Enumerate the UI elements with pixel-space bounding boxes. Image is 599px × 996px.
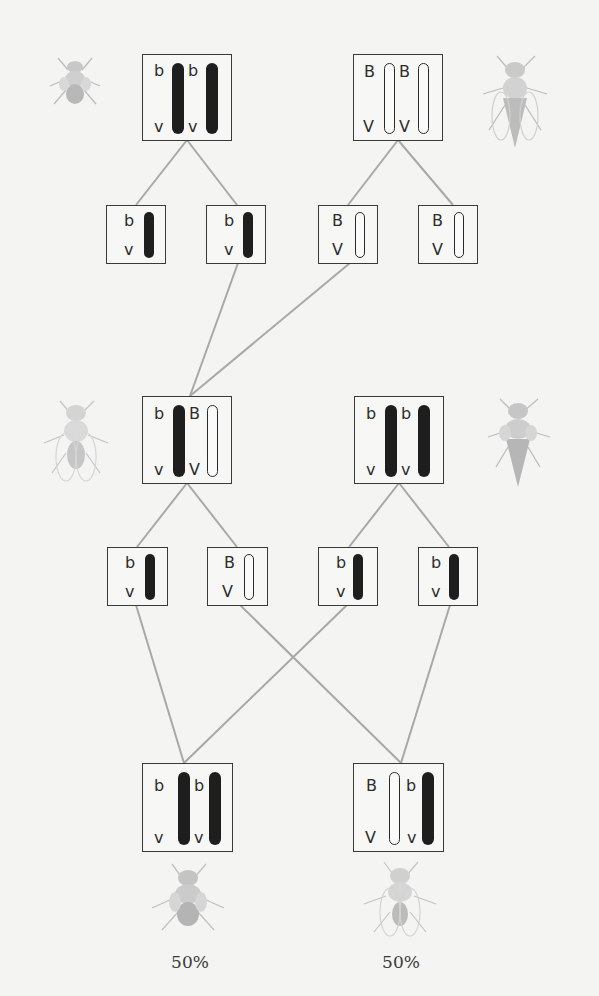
allele-label: b (154, 63, 164, 79)
chromosome-recessive (353, 554, 363, 600)
allele-label: b (194, 778, 204, 794)
allele-label: V (189, 462, 200, 478)
allele-label: b (366, 406, 376, 422)
allele-label: B (364, 64, 375, 80)
gamete-box: b v (107, 547, 168, 606)
chromosome-dominant (355, 212, 365, 258)
offspring-box-2: B V b v (353, 763, 444, 852)
allele-label: V (332, 242, 343, 258)
allele-label: V (222, 584, 233, 600)
chromosome-dominant (207, 405, 218, 477)
wild-type-fly-icon (360, 860, 440, 940)
gamete-box: b v (418, 547, 478, 606)
gamete-box: B V (207, 547, 268, 606)
chromosome-recessive (385, 405, 397, 477)
chromosome-recessive (206, 63, 218, 134)
offspring-box-1: b v b v (142, 763, 233, 852)
chromosome-recessive (172, 63, 184, 134)
gamete-box: b v (206, 205, 266, 264)
offspring-percentage-2: 50% (361, 952, 441, 972)
allele-label: v (154, 830, 163, 846)
allele-label: V (399, 119, 410, 135)
allele-label: b (406, 778, 416, 794)
allele-label: v (188, 119, 197, 135)
chromosome-dominant (389, 772, 400, 845)
allele-label: v (336, 584, 345, 600)
allele-label: v (125, 584, 134, 600)
allele-label: v (407, 830, 416, 846)
allele-label: b (336, 555, 346, 571)
allele-label: b (124, 213, 134, 229)
allele-label: b (154, 778, 164, 794)
allele-label: v (154, 462, 163, 478)
allele-label: B (432, 213, 443, 229)
wild-type-fly-icon (38, 395, 113, 490)
chromosome-dominant (244, 554, 254, 600)
allele-label: b (401, 406, 411, 422)
black-vestigial-fly-icon (40, 52, 110, 112)
chromosome-recessive (144, 212, 154, 258)
chromosome-recessive (418, 405, 430, 477)
chromosome-recessive (449, 554, 459, 600)
offspring-percentage-1: 50% (150, 952, 230, 972)
f1-box: b v B V (142, 396, 232, 484)
allele-label: v (124, 242, 133, 258)
wild-type-fly-icon (475, 50, 555, 155)
allele-label: v (431, 584, 440, 600)
black-vestigial-fly-icon (478, 395, 558, 490)
chromosome-recessive (243, 212, 253, 258)
black-vestigial-fly-icon (148, 862, 228, 937)
allele-label: B (399, 64, 410, 80)
chromosome-recessive (422, 772, 434, 845)
allele-label: v (401, 462, 410, 478)
allele-label: B (224, 555, 235, 571)
chromosome-recessive (178, 772, 190, 845)
allele-label: b (125, 555, 135, 571)
gamete-box: B V (418, 205, 478, 264)
allele-label: B (366, 778, 377, 794)
allele-label: B (189, 406, 200, 422)
parent-box-1: b v b v (142, 54, 232, 141)
allele-label: b (224, 213, 234, 229)
chromosome-dominant (418, 63, 429, 134)
chromosome-dominant (384, 63, 395, 134)
allele-label: v (224, 242, 233, 258)
genetic-cross-diagram: b v b v B V B V (0, 0, 599, 996)
allele-label: b (188, 63, 198, 79)
chromosome-recessive (145, 554, 155, 600)
gamete-box: B V (318, 205, 378, 264)
chromosome-recessive (209, 772, 221, 845)
allele-label: V (365, 830, 376, 846)
allele-label: B (332, 213, 343, 229)
allele-label: V (432, 242, 443, 258)
allele-label: V (363, 119, 374, 135)
gamete-box: b v (106, 205, 166, 264)
parent-box-2: B V B V (353, 54, 443, 141)
chromosome-recessive (173, 405, 185, 477)
allele-label: b (431, 555, 441, 571)
allele-label: v (366, 462, 375, 478)
allele-label: b (154, 406, 164, 422)
tester-box: b v b v (354, 396, 444, 484)
gamete-box: b v (318, 547, 378, 606)
chromosome-dominant (454, 212, 464, 258)
allele-label: v (154, 119, 163, 135)
allele-label: v (194, 830, 203, 846)
